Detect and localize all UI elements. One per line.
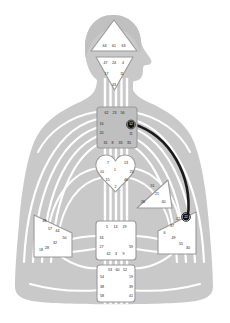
gate-17-ajna[interactable]: 17	[105, 72, 109, 76]
gate-43-ajna[interactable]: 43	[112, 83, 116, 87]
bodygraph-canvas: 6461634724417114362235616201211318333571…	[0, 0, 230, 323]
gate-63-head[interactable]: 63	[122, 44, 126, 48]
gate-42-sacral[interactable]: 42	[107, 252, 111, 256]
gate-29-sacral[interactable]: 29	[123, 225, 127, 229]
gate-22-solar_plexus[interactable]: 22	[184, 215, 188, 219]
gate-47-ajna[interactable]: 47	[104, 61, 108, 65]
gate-2-g[interactable]: 2	[115, 185, 117, 189]
gate-62-throat[interactable]: 62	[105, 111, 109, 115]
gate-44-spleen[interactable]: 44	[56, 229, 60, 233]
gate-59-sacral[interactable]: 59	[129, 245, 133, 249]
gate-53-root[interactable]: 53	[108, 268, 112, 272]
gate-26-ego[interactable]: 26	[141, 200, 145, 204]
gate-30-solar_plexus[interactable]: 30	[186, 246, 190, 250]
gate-41-root[interactable]: 41	[129, 294, 133, 298]
gate-18-spleen[interactable]: 18	[39, 248, 43, 252]
gate-32-spleen[interactable]: 32	[53, 241, 57, 245]
gate-20-throat[interactable]: 20	[100, 131, 104, 135]
gate-40-ego[interactable]: 40	[162, 200, 166, 204]
gate-64-head[interactable]: 64	[103, 44, 107, 48]
gate-19-root[interactable]: 19	[129, 275, 133, 279]
gate-49-solar_plexus[interactable]: 49	[172, 236, 176, 240]
gate-39-root[interactable]: 39	[129, 285, 133, 289]
gate-4-ajna[interactable]: 4	[122, 61, 124, 65]
gate-58-root[interactable]: 58	[100, 294, 104, 298]
gate-14-sacral[interactable]: 14	[114, 225, 118, 229]
gate-11-ajna[interactable]: 11	[120, 72, 124, 76]
gate-21-ego[interactable]: 21	[155, 192, 159, 196]
gate-11-throat[interactable]: 11	[129, 132, 133, 136]
gate-55-solar_plexus[interactable]: 55	[179, 242, 183, 246]
gate-10-g[interactable]: 10	[100, 170, 104, 174]
gate-50-spleen[interactable]: 50	[63, 236, 67, 240]
gate-37-solar_plexus[interactable]: 37	[170, 224, 174, 228]
gate-6-solar_plexus[interactable]: 6	[164, 231, 166, 235]
gate-38-root[interactable]: 38	[100, 285, 104, 289]
gate-57-spleen[interactable]: 57	[48, 227, 52, 231]
gate-15-g[interactable]: 15	[106, 178, 110, 182]
gate-13-g[interactable]: 13	[124, 161, 128, 165]
bodygraph-figure: 6461634724417114362235616201211318333571…	[0, 0, 230, 323]
gate-51-ego[interactable]: 51	[151, 184, 155, 188]
gate-31-throat[interactable]: 31	[104, 141, 108, 145]
gate-35-throat[interactable]: 35	[127, 141, 131, 145]
gate-23-throat[interactable]: 23	[113, 111, 117, 115]
gate-33-throat[interactable]: 33	[119, 141, 123, 145]
gate-54-root[interactable]: 54	[100, 275, 104, 279]
gate-46-g[interactable]: 46	[124, 178, 128, 182]
gate-5-sacral[interactable]: 5	[106, 225, 108, 229]
gate-12-throat[interactable]: 12	[129, 122, 133, 126]
gate-48-spleen[interactable]: 48	[43, 219, 47, 223]
gate-27-sacral[interactable]: 27	[100, 245, 104, 249]
gate-24-ajna[interactable]: 24	[112, 61, 116, 65]
gate-28-spleen[interactable]: 28	[45, 246, 49, 250]
gate-1-g[interactable]: 1	[114, 168, 116, 172]
gate-8-throat[interactable]: 8	[112, 141, 114, 145]
gate-9-sacral[interactable]: 9	[123, 252, 125, 256]
gate-34-sacral[interactable]: 34	[100, 236, 104, 240]
gate-7-g[interactable]: 7	[107, 161, 109, 165]
gate-12-solar_plexus[interactable]: 12	[176, 217, 180, 221]
gate-3-sacral[interactable]: 3	[115, 252, 117, 256]
gate-56-throat[interactable]: 56	[121, 111, 125, 115]
gate-61-head[interactable]: 61	[112, 44, 116, 48]
gate-16-throat[interactable]: 16	[100, 122, 104, 126]
gate-60-root[interactable]: 60	[116, 268, 120, 272]
gate-25-g[interactable]: 25	[130, 170, 134, 174]
gate-52-root[interactable]: 52	[123, 268, 127, 272]
